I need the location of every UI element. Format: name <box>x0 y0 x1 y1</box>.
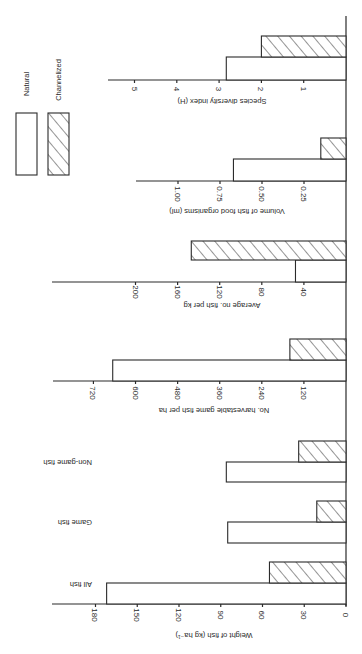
category-label: Game fish <box>58 518 92 527</box>
axis-title: Weight of fish (kg ha⁻¹) <box>175 631 253 640</box>
axis-title: Volume of fish food organisms (ml) <box>169 207 285 216</box>
tick-label: 360 <box>215 386 224 400</box>
bar-natural <box>113 360 346 381</box>
tick-label: 1.00 <box>173 186 182 202</box>
bar-channelized <box>290 339 346 360</box>
tick-label: 0.75 <box>215 186 224 202</box>
legend-natural-swatch <box>16 113 37 175</box>
bar-natural <box>226 462 346 482</box>
tick-label: 480 <box>173 386 182 400</box>
tick-label: 90 <box>216 611 225 620</box>
bar-natural <box>228 522 346 543</box>
tick-label: 160 <box>173 285 182 299</box>
legend-natural-label: Natural <box>22 72 31 97</box>
chart-panels: 0306090120150180Weight of fish (kg ha⁻¹)… <box>43 36 350 640</box>
tick-label: 30 <box>299 611 308 620</box>
legend: Natural Channelized <box>16 59 69 175</box>
tick-label: 0.25 <box>299 186 308 202</box>
panel-4: 12345Species diversity index (H) <box>108 36 346 106</box>
chart-canvas: Natural Channelized 0306090120150180Weig… <box>0 0 362 654</box>
category-label: Non-game fish <box>43 458 92 467</box>
tick-label: 1 <box>299 87 308 92</box>
axis-title: Average no. fish per kg <box>184 301 261 310</box>
tick-label: 80 <box>257 288 266 297</box>
legend-channelized-swatch <box>48 113 69 175</box>
tick-label: 60 <box>257 611 266 620</box>
bar-channelized <box>191 241 346 260</box>
bar-channelized <box>299 441 346 462</box>
bar-natural <box>233 159 346 181</box>
bar-channelized <box>317 501 346 522</box>
axis-title: Species diversity index (H) <box>177 97 266 106</box>
bar-natural <box>107 583 346 604</box>
tick-label: 720 <box>88 386 97 400</box>
panel-2: 4080120160200Average no. fish per kg <box>52 241 346 310</box>
panel-3: 0.250.500.751.00Volume of fish food orga… <box>136 138 346 216</box>
tick-label: 180 <box>90 608 99 622</box>
panel-0: 0306090120150180Weight of fish (kg ha⁻¹)… <box>43 441 350 640</box>
bar-channelized <box>269 562 346 583</box>
tick-label: 120 <box>215 285 224 299</box>
bar-channelized <box>261 36 346 57</box>
tick-label: 0 <box>341 613 350 618</box>
legend-channelized-label: Channelized <box>54 59 63 101</box>
tick-label: 3 <box>214 87 223 92</box>
bar-channelized <box>321 138 346 159</box>
tick-label: 600 <box>131 386 140 400</box>
tick-label: 200 <box>131 285 140 299</box>
tick-label: 4 <box>172 87 181 92</box>
tick-label: 120 <box>174 608 183 622</box>
category-label: All fish <box>70 580 92 589</box>
bar-natural <box>226 57 346 80</box>
tick-label: 40 <box>299 288 308 297</box>
tick-label: 5 <box>130 87 139 92</box>
tick-label: 0.50 <box>257 186 266 202</box>
panel-1: 120240360480600720No. harvestable game f… <box>53 339 346 415</box>
tick-label: 120 <box>299 386 308 400</box>
bar-natural <box>295 260 346 282</box>
tick-label: 2 <box>256 87 265 92</box>
tick-label: 150 <box>132 608 141 622</box>
axis-title: No. harvestable game fish per ha <box>158 406 269 415</box>
tick-label: 240 <box>257 386 266 400</box>
